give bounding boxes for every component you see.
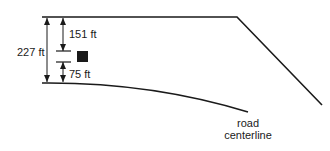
- road-centerline-curve: [42, 83, 248, 112]
- road-label-line1: road: [218, 117, 278, 129]
- road-label-line2: centerline: [213, 129, 283, 141]
- total-distance-label: 227 ft: [17, 46, 45, 58]
- site-marker-square: [77, 51, 88, 62]
- total-dimension-arrow: [44, 18, 50, 82]
- upper-distance-label: 151 ft: [69, 28, 97, 40]
- lower-distance-label: 75 ft: [69, 68, 90, 80]
